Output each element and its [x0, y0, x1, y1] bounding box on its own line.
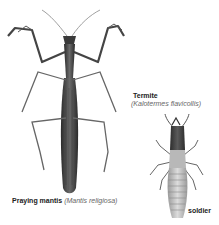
termite-scientific-name: (Kalotermes flavicollis) — [131, 100, 201, 108]
termite-soldier-illustration — [150, 114, 203, 218]
termite-common-name: Termite — [133, 92, 158, 100]
praying-mantis-illustration — [8, 10, 124, 193]
mantis-caption: Praying mantis (Mantis religiosa) — [12, 197, 117, 205]
mantis-common-name: Praying mantis — [12, 197, 62, 204]
termite-caste-label: soldier — [188, 207, 211, 215]
illustration-canvas — [0, 0, 219, 225]
mantis-scientific-name: (Mantis religiosa) — [64, 197, 117, 204]
